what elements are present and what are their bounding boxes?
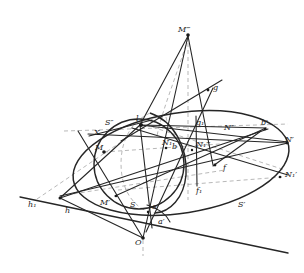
sphere-circle-group — [94, 119, 184, 209]
point-f — [214, 164, 217, 167]
label-n1-prime: N₁′ — [284, 170, 297, 179]
base-ellipse-group — [66, 97, 297, 230]
label-s-prime: S′ — [238, 200, 245, 209]
label-f: f — [222, 163, 228, 172]
label-h1: h₁ — [28, 200, 36, 209]
label-b-prime: b′ — [261, 118, 268, 127]
label-a-prime: a′ — [158, 217, 165, 226]
point-o — [141, 236, 145, 240]
geometry-figure: M‴ g g₁ S″ X l N″ b′ N′ M N₁ b N₁‴ f N₁′… — [0, 0, 304, 273]
point-a — [147, 211, 149, 213]
base-ellipse — [66, 97, 297, 230]
label-n-prime: N′ — [284, 135, 294, 144]
label-s: S — [130, 200, 136, 209]
point-n1 — [165, 147, 168, 150]
point-g — [207, 89, 210, 92]
sphere-outline-circle — [94, 119, 184, 209]
label-m-prime: M′ — [99, 198, 110, 207]
label-h: h — [65, 206, 70, 215]
label-a: a — [152, 202, 157, 211]
label-n1-triple-prime: N₁‴ — [195, 140, 211, 149]
point-l — [139, 123, 143, 127]
label-f1: f₁ — [195, 186, 202, 195]
label-n-double-prime: N″ — [223, 123, 234, 132]
label-s-double-prime: S″ — [105, 118, 113, 127]
label-m-triple-prime: M‴ — [177, 25, 191, 34]
label-x: X — [93, 128, 100, 137]
point-mprime — [115, 195, 118, 198]
construction-drawing: M‴ g g₁ S″ X l N″ b′ N′ M N₁ b N₁‴ f N₁′… — [0, 0, 304, 273]
label-m: M — [94, 143, 104, 152]
point-labels: M‴ g g₁ S″ X l N″ b′ N′ M N₁ b N₁‴ f N₁′… — [28, 25, 297, 247]
point-n13 — [191, 149, 193, 151]
line-l-to-f — [132, 128, 288, 175]
point-h — [59, 197, 62, 200]
generator-apex-to-l — [140, 36, 188, 125]
label-n1: N₁ — [161, 138, 172, 147]
point-n1-prime — [279, 176, 282, 179]
label-g1: g₁ — [196, 118, 204, 127]
label-o: O — [135, 238, 142, 247]
label-g: g — [213, 83, 218, 92]
point-b-prime — [264, 128, 267, 131]
construction-solid-lines — [20, 36, 288, 253]
label-b: b — [172, 142, 177, 151]
label-l: l — [136, 114, 139, 123]
apex-curve-dashed — [157, 38, 188, 136]
